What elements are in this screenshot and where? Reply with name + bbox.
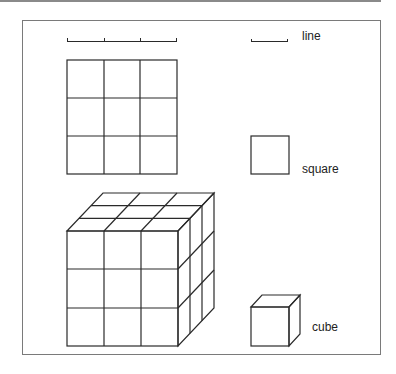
ruler-line [67, 38, 177, 42]
label-square: square [302, 162, 339, 176]
unit-square [251, 136, 289, 174]
unit-line [251, 39, 288, 42]
unit-cube [251, 295, 300, 346]
label-line: line [302, 29, 321, 43]
cube-3x3x3 [67, 193, 214, 346]
label-cube: cube [312, 320, 338, 334]
grid-square-3x3 [67, 60, 177, 174]
diagram-canvas [0, 0, 396, 374]
